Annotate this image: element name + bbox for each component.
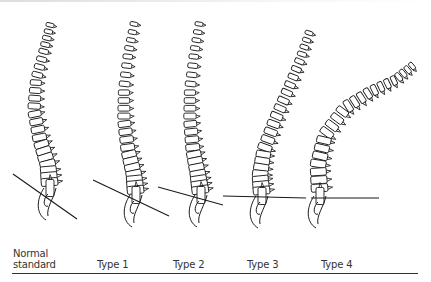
spine-type3: [223, 30, 316, 228]
sacral-slope-line-type2: [158, 187, 223, 205]
label-normal-line2: standard: [13, 259, 56, 270]
baseline-rule: [12, 273, 418, 274]
label-type1: Type 1: [97, 259, 128, 270]
label-type3: Type 3: [247, 259, 278, 270]
label-type2: Type 2: [173, 259, 204, 270]
spine-type2: [158, 21, 223, 227]
label-type4: Type 4: [321, 259, 352, 270]
spine-normal: [13, 22, 77, 220]
spine-type4: [308, 62, 417, 228]
spine-type1: [93, 21, 169, 227]
spine-diagram: [0, 0, 431, 230]
label-normal-line1: Normal: [13, 248, 48, 259]
